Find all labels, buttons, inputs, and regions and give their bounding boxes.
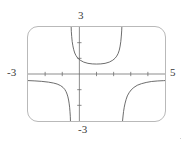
plot-canvas	[28, 27, 165, 121]
axes-group	[28, 27, 165, 121]
axis-label-x-min: -3	[7, 67, 16, 78]
curve-branch-lower-left	[28, 81, 70, 121]
axis-label-y-min: -3	[78, 124, 87, 135]
axis-label-x-max: 5	[170, 67, 176, 78]
corner-speck	[180, 138, 181, 139]
axis-label-y-max: 3	[78, 10, 84, 21]
calculator-screen-frame	[27, 26, 166, 122]
curve-branch-upper-middle	[71, 27, 122, 64]
curve-branch-lower-right	[123, 81, 165, 121]
figure-root: 3 -3 5 -3	[0, 0, 189, 144]
